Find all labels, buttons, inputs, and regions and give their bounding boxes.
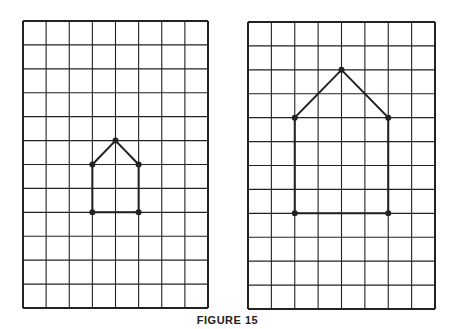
vertex-dot — [113, 138, 119, 144]
vertex-dot — [385, 210, 391, 216]
vertex-dot — [385, 115, 391, 121]
vertex-dot — [136, 209, 142, 215]
figure-canvas — [0, 0, 455, 329]
small-grid — [23, 21, 208, 308]
vertex-dot — [89, 162, 95, 168]
vertex-dot — [292, 210, 298, 216]
vertex-dot — [89, 209, 95, 215]
large-grid — [248, 22, 435, 309]
vertex-dot — [292, 115, 298, 121]
vertex-dot — [136, 162, 142, 168]
vertex-dot — [339, 67, 345, 73]
figure-caption: FIGURE 15 — [0, 314, 455, 326]
